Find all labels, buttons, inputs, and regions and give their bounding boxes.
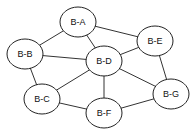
node-b-f: B-F [86, 98, 122, 128]
node-b-b: B-B [7, 39, 43, 69]
nodes: B-AB-BB-CB-DB-EB-FB-G [7, 7, 189, 128]
node-b-d: B-D [86, 46, 122, 76]
node-b-c: B-C [24, 84, 60, 114]
node-b-a: B-A [60, 7, 96, 37]
network-graph: B-AB-BB-CB-DB-EB-FB-G [0, 0, 194, 136]
node-label: B-E [147, 36, 162, 46]
node-label: B-C [34, 94, 50, 104]
node-label: B-B [17, 49, 32, 59]
node-label: B-G [163, 89, 179, 99]
node-b-g: B-G [153, 79, 189, 109]
node-b-e: B-E [137, 26, 173, 56]
node-label: B-F [97, 108, 112, 118]
node-label: B-D [96, 56, 112, 66]
node-label: B-A [70, 17, 85, 27]
